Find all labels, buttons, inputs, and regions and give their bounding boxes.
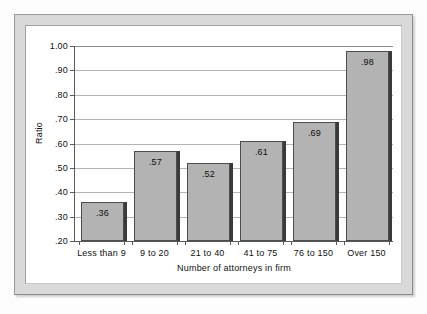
bar: .69 (293, 122, 335, 241)
y-axis-tick (70, 168, 75, 169)
x-axis-tick (79, 241, 80, 245)
bar-value-label: .61 (241, 147, 281, 157)
y-axis-tick-label: .60 (55, 139, 68, 149)
x-axis-tick (344, 241, 345, 245)
x-axis-tick-label: Less than 9 (75, 248, 128, 258)
y-axis-title: Ratio (34, 122, 44, 144)
x-axis-tick-label: 9 to 20 (128, 248, 181, 258)
bar-value-label: .36 (82, 208, 122, 218)
figure-root: Ratio 1.00.90.80.70.60.50.40.30.20 .36.5… (0, 0, 427, 314)
x-axis-tick (238, 241, 239, 245)
x-axis-tick-label: Over 150 (340, 248, 393, 258)
bar-value-label: .52 (188, 169, 228, 179)
x-axis-tick-label: 21 to 40 (181, 248, 234, 258)
y-axis-tick (70, 241, 75, 242)
bar: .36 (81, 202, 123, 241)
x-axis-tick (389, 241, 390, 245)
x-axis-tick (230, 241, 231, 245)
y-axis-tick (70, 144, 75, 145)
bar: .98 (346, 51, 388, 241)
bar: .57 (134, 151, 176, 241)
y-axis-tick-label: .90 (55, 65, 68, 75)
y-axis-tick-label: 1.00 (50, 41, 68, 51)
bar-series: .36.57.52.61.69.98 (76, 46, 393, 241)
bar: .52 (187, 163, 229, 241)
y-axis-tick (70, 46, 75, 47)
chart-panel: Ratio 1.00.90.80.70.60.50.40.30.20 .36.5… (25, 25, 402, 284)
y-axis-tick-label: .70 (55, 114, 68, 124)
bar-value-label: .69 (294, 128, 334, 138)
y-axis-tick-label: .20 (55, 236, 68, 246)
y-axis-tick (70, 119, 75, 120)
bar: .61 (240, 141, 282, 241)
y-axis-tick-label: .40 (55, 187, 68, 197)
bar-value-label: .57 (135, 157, 175, 167)
bar-value-label: .98 (347, 57, 387, 67)
x-axis-tick (124, 241, 125, 245)
y-axis-tick-label: .80 (55, 90, 68, 100)
x-axis-title: Number of attorneys in firm (75, 263, 393, 273)
y-axis-tick (70, 95, 75, 96)
figure-outer-frame: Ratio 1.00.90.80.70.60.50.40.30.20 .36.5… (14, 14, 413, 295)
x-axis-tick (132, 241, 133, 245)
y-axis-tick-label: .30 (55, 212, 68, 222)
y-axis-tick (70, 192, 75, 193)
x-axis-tick (336, 241, 337, 245)
x-axis-tick (177, 241, 178, 245)
x-axis-tick-label: 76 to 150 (287, 248, 340, 258)
x-axis-tick (283, 241, 284, 245)
x-axis-tick (185, 241, 186, 245)
y-axis-tick-label: .50 (55, 163, 68, 173)
plot-area: 1.00.90.80.70.60.50.40.30.20 .36.57.52.6… (74, 46, 393, 242)
y-axis-tick (70, 70, 75, 71)
chart-area: Ratio 1.00.90.80.70.60.50.40.30.20 .36.5… (26, 26, 401, 283)
y-axis-tick (70, 217, 75, 218)
x-axis-tick (291, 241, 292, 245)
x-axis-tick-label: 41 to 75 (234, 248, 287, 258)
